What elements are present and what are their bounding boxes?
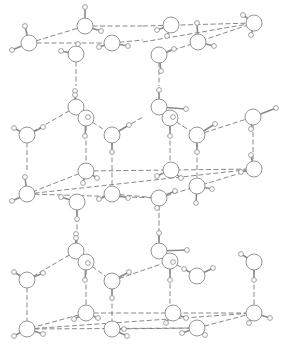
water-molecule [78, 254, 94, 282]
hydrogen-atom [180, 331, 185, 336]
hydrogen-bond [112, 261, 170, 281]
hydrogen-atom [185, 248, 190, 253]
hydrogen-atom [194, 201, 199, 206]
hydrogen-atom [184, 107, 189, 112]
water-molecule [78, 110, 94, 138]
hydrogen-atom [212, 44, 217, 49]
hydrogen-atom [195, 21, 200, 26]
hydrogen-bond [27, 313, 254, 329]
hydrogen-atom [97, 197, 102, 202]
oxygen-atom [189, 178, 205, 194]
hydrogen-atom [86, 115, 91, 120]
water-molecule [104, 270, 131, 301]
hydrogen-atom [72, 317, 77, 322]
oxygen-atom [19, 127, 35, 143]
water-molecule [151, 47, 176, 74]
water-molecule [239, 153, 262, 177]
hydrogen-atom [168, 278, 173, 283]
ice-lattice-diagram: Ice crystal structure (hydrogen-bonded w… [0, 0, 287, 344]
oxygen-atom [21, 35, 37, 51]
hydrogen-bond [29, 26, 85, 43]
hydrogen-atom [252, 278, 257, 283]
hydrogen-atom [41, 332, 46, 337]
oxygen-atom [246, 15, 262, 31]
water-molecule [59, 42, 84, 62]
hydrogen-atom [83, 134, 88, 139]
oxygen-atom [151, 190, 167, 206]
hydrogen-atom [184, 316, 189, 321]
oxygen-atom [189, 127, 205, 143]
water-molecule [104, 123, 131, 155]
hydrogen-atom [74, 236, 79, 241]
hydrogen-atom [23, 175, 28, 180]
oxygen-atom [19, 321, 35, 337]
hydrogen-atom [126, 196, 131, 201]
hydrogen-atom [179, 176, 184, 181]
oxygen-atom [163, 162, 179, 178]
hydrogen-atom [155, 174, 160, 179]
oxygen-atom [246, 305, 262, 321]
water-molecule [162, 110, 178, 138]
hydrogen-atom [247, 321, 252, 326]
water-molecule [12, 270, 46, 288]
hydrogen-atom [41, 271, 46, 276]
water-molecule [104, 321, 129, 338]
hydrogen-atom [213, 122, 218, 127]
water-molecule [78, 163, 99, 185]
water-molecule [239, 252, 262, 283]
hydrogen-atom [172, 47, 177, 52]
hydrogen-atom [110, 296, 115, 301]
oxygen-atom [78, 163, 94, 179]
oxygen-atom [78, 305, 94, 321]
water-molecule [164, 305, 189, 325]
oxygen-atom [69, 194, 85, 210]
hydrogen-atom [249, 127, 254, 132]
hydrogen-atom [83, 5, 88, 10]
hydrogen-atom [73, 93, 78, 98]
hydrogen-atom [96, 316, 101, 321]
hydrogen-atom [241, 13, 246, 18]
hydrogen-atom [249, 33, 254, 38]
hydrogen-atom [23, 24, 28, 29]
water-molecule [97, 35, 131, 51]
hydrogen-atom [165, 34, 170, 39]
hydrogen-atom [157, 231, 162, 236]
water-molecule [246, 305, 272, 325]
hydrogen-atom [195, 150, 200, 155]
hydrogen-atom [125, 334, 130, 339]
hydrogen-atom [203, 333, 208, 338]
hydrogen-atom [86, 261, 91, 266]
water-molecule [12, 321, 46, 338]
water-molecule [155, 17, 179, 38]
hydrogen-atom [171, 260, 176, 265]
oxygen-atom [246, 161, 262, 177]
hydrogen-atom [126, 44, 131, 49]
hydrogen-atom [159, 69, 164, 74]
hydrogen-atom [268, 316, 273, 321]
oxygen-atom [165, 305, 181, 321]
oxygen-atom [68, 46, 84, 62]
oxygen-atom [151, 47, 167, 63]
hydrogen-atom [12, 334, 17, 339]
oxygen-atom [19, 272, 35, 288]
hydrogen-atom [10, 48, 15, 53]
hydrogen-atom [75, 217, 80, 222]
oxygen-atom [104, 273, 120, 289]
hydrogen-atom [127, 270, 132, 275]
hydrogen-atom [99, 29, 104, 34]
oxygen-atom [189, 268, 205, 284]
water-molecule [59, 194, 85, 221]
water-molecule [182, 266, 216, 284]
hydrogen-atom [157, 88, 162, 93]
water-molecule [97, 186, 131, 202]
hydrogen-atom [59, 49, 64, 54]
water-molecule [10, 24, 37, 53]
water-molecule [162, 253, 178, 282]
oxygen-atom [104, 127, 120, 143]
hydrogen-bond [27, 171, 86, 194]
oxygen-atom [163, 17, 179, 33]
hydrogen-atom [182, 267, 187, 272]
oxygen-atom [104, 321, 120, 337]
water-molecule [10, 175, 35, 204]
water-molecule [190, 21, 216, 50]
